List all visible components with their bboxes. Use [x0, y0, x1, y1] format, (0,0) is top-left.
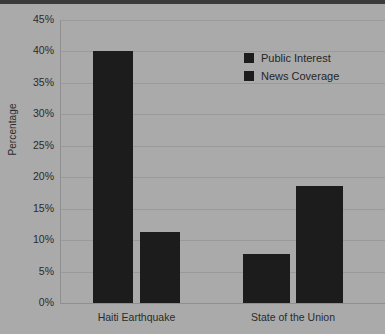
- x-axis-tick-label: State of the Union: [223, 311, 363, 323]
- bar-chart: Percentage 0%5%10%15%20%25%30%35%40%45% …: [0, 0, 385, 334]
- y-axis-tick-label: 0%: [8, 296, 54, 308]
- legend-item-news-coverage: News Coverage: [244, 68, 339, 83]
- x-axis-tick-label: Haiti Earthquake: [67, 311, 207, 323]
- top-band: [0, 0, 385, 4]
- x-axis-line: [60, 303, 385, 304]
- y-axis-tick-label: 30%: [8, 107, 54, 119]
- y-axis-tick-label: 35%: [8, 76, 54, 88]
- gridline: [60, 20, 385, 21]
- y-axis-line: [60, 20, 61, 303]
- legend-swatch-icon: [244, 53, 254, 63]
- y-axis-tick-label: 15%: [8, 202, 54, 214]
- y-axis-title: Percentage: [7, 90, 18, 170]
- bar: [243, 254, 290, 303]
- chart-legend: Public Interest News Coverage: [244, 50, 339, 86]
- y-axis-tick-label: 10%: [8, 233, 54, 245]
- y-axis-tick-label: 45%: [8, 13, 54, 25]
- y-axis-tick-label: 40%: [8, 44, 54, 56]
- y-axis-tick-label: 20%: [8, 170, 54, 182]
- y-axis-tick-label: 5%: [8, 265, 54, 277]
- legend-label: Public Interest: [261, 52, 331, 64]
- bar: [140, 232, 180, 303]
- legend-label: News Coverage: [261, 70, 339, 82]
- bar: [93, 51, 133, 303]
- legend-item-public-interest: Public Interest: [244, 50, 339, 65]
- bar: [296, 186, 343, 303]
- y-axis-tick-label: 25%: [8, 139, 54, 151]
- legend-swatch-icon: [244, 71, 254, 81]
